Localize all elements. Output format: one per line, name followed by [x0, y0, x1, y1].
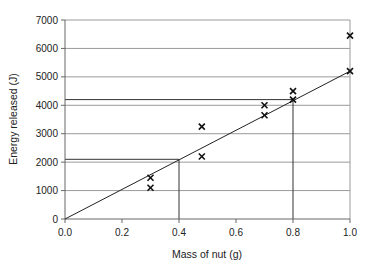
best-fit-line [65, 71, 350, 219]
x-tick-label: 1.0 [343, 227, 357, 238]
y-tick-label: 1000 [36, 185, 59, 196]
y-tick-label: 6000 [36, 43, 59, 54]
x-marker-icon [148, 185, 154, 191]
y-tick-label: 3000 [36, 128, 59, 139]
x-marker-icon [199, 153, 205, 159]
x-tick-label: 0.6 [229, 227, 243, 238]
y-tick-label: 4000 [36, 100, 59, 111]
x-tick-label: 0.8 [286, 227, 300, 238]
x-tick-label: 0.4 [172, 227, 186, 238]
y-tick-label: 7000 [36, 15, 59, 26]
x-marker-icon [148, 175, 154, 181]
x-tick-label: 0.0 [58, 227, 72, 238]
fit-line [65, 71, 350, 219]
y-tick-label: 5000 [36, 71, 59, 82]
scatter-chart: 010002000300040005000600070000.00.20.40.… [0, 0, 371, 277]
data-points [148, 33, 354, 191]
gridlines [65, 20, 350, 219]
x-axis-title: Mass of nut (g) [172, 248, 242, 260]
axes [61, 20, 350, 223]
x-marker-icon [262, 112, 268, 118]
x-marker-icon [199, 124, 205, 130]
y-tick-label: 0 [52, 214, 58, 225]
y-axis-title: Energy released (J) [7, 73, 19, 165]
x-marker-icon [290, 88, 296, 94]
x-tick-label: 0.2 [115, 227, 129, 238]
y-tick-label: 2000 [36, 157, 59, 168]
